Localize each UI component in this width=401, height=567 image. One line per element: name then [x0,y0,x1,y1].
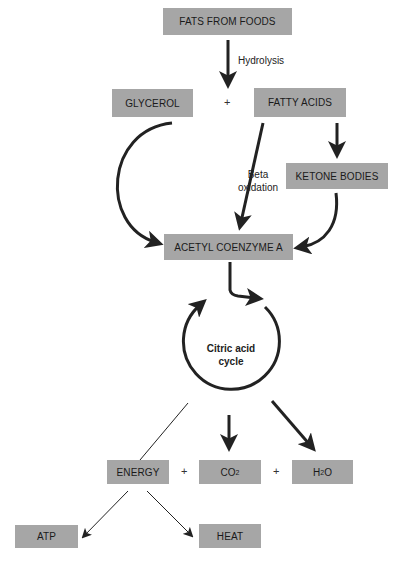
plus-sign: + [273,465,279,477]
label-cycle: cycle [195,355,267,368]
arrow-cycle-to-h2o [272,401,310,445]
node-co2: CO2 [199,460,261,484]
label-beta-oxidation: Beta oxidation [228,168,288,194]
node-ketone-bodies: KETONE BODIES [286,163,388,189]
node-heat: HEAT [199,524,261,548]
node-glycerol: GLYCEROL [112,89,193,117]
label-citric-acid-cycle: Citric acid cycle [195,342,267,368]
h2o-h: H [313,467,320,478]
arrow-energy-to-heat [147,491,192,536]
arrow-glycerol-to-acetyl [117,123,172,242]
plus-sign: + [181,465,187,477]
arrow-energy-to-atp [83,491,128,537]
node-energy: ENERGY [107,460,169,484]
label-hydrolysis: Hydrolysis [238,54,284,67]
arrow-ketone-to-acetyl [302,193,337,247]
co2-text: CO [220,467,235,478]
arrow-acetyl-to-cycle [230,262,255,298]
node-atp: ATP [15,525,78,548]
node-fatty-acids: FATTY ACIDS [254,88,346,117]
node-acetyl-coenzyme-a: ACETYL COENZYME A [164,234,293,260]
label-beta: Beta [228,168,288,181]
co2-subscript: 2 [236,469,240,476]
line-cycle-to-energy [140,403,188,460]
label-citric-acid: Citric acid [195,342,267,355]
node-h2o: H2O [292,460,353,484]
label-oxidation: oxidation [228,181,288,194]
h2o-o: O [324,467,332,478]
plus-sign: + [224,96,230,108]
node-fats-from-foods: FATS FROM FOODS [163,8,292,35]
